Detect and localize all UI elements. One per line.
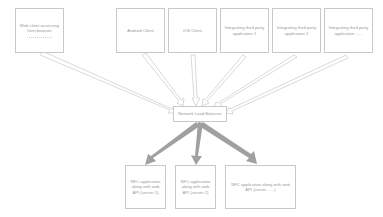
load-balancer-label: Network Load Balancer (178, 111, 222, 116)
client-web-box: Web client accessing from browser (15, 8, 64, 53)
arrow-web-to-lb (40, 51, 174, 113)
client-ios-label: iOS Client (183, 28, 202, 33)
server-n-label: NFC application along with web API (serv… (228, 182, 293, 193)
server-1-label: NFC application along with web API (serv… (128, 179, 163, 195)
server-n-box: NFC application along with web API (serv… (225, 165, 296, 209)
client-android-label: Android Client (127, 28, 153, 33)
arrow-tpn-to-lb (226, 55, 348, 114)
server-1-box: NFC application along with web API (serv… (125, 165, 166, 209)
client-android-box: Android Client (116, 8, 165, 53)
client-web-label: Web client accessing from browser (18, 23, 61, 34)
dotted-line (27, 35, 53, 38)
server-2-label: NFC application along with web API (serv… (178, 179, 213, 195)
client-ios-box: iOS Client (168, 8, 217, 53)
client-thirdparty-n-label: Integrating third party application ....… (327, 25, 370, 36)
arrow-tp1-to-lb (202, 55, 246, 106)
arrow-lb-to-server1 (145, 122, 200, 165)
load-balancer-box: Network Load Balancer (173, 106, 227, 122)
client-thirdparty-1-label: Integrating third party application 1 (223, 25, 266, 36)
client-thirdparty-n-box: Integrating third party application ....… (324, 8, 373, 53)
client-thirdparty-1-box: Integrating third party application 1 (220, 8, 269, 53)
arrow-ios-to-lb (191, 55, 200, 106)
client-thirdparty-2-box: Integrating third party application 2 (272, 8, 321, 53)
client-thirdparty-2-label: Integrating third party application 2 (275, 25, 318, 36)
server-2-box: NFC application along with web API (serv… (175, 165, 216, 209)
arrow-lb-to-server3 (199, 122, 257, 164)
